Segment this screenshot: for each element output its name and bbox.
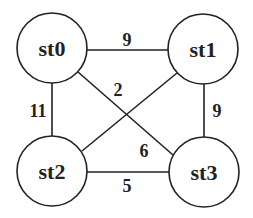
edge-weight-st0-st2: 11 bbox=[29, 101, 46, 121]
edge-weight-st0-st1: 9 bbox=[123, 30, 132, 50]
edge-weight-st0-st3: 2 bbox=[114, 80, 123, 100]
node-label-st2: st2 bbox=[39, 159, 66, 184]
edge-weight-st2-st3: 5 bbox=[123, 176, 132, 196]
node-label-st0: st0 bbox=[39, 36, 66, 61]
graph-diagram: st0 st1 st2 st3 9 11 2 6 9 5 bbox=[0, 0, 253, 218]
node-label-st1: st1 bbox=[190, 37, 217, 62]
edge-st1-st2 bbox=[82, 73, 177, 151]
edge-weight-st1-st3: 9 bbox=[213, 101, 222, 121]
node-label-st3: st3 bbox=[191, 160, 218, 185]
edge-weight-st1-st2: 6 bbox=[140, 141, 149, 161]
